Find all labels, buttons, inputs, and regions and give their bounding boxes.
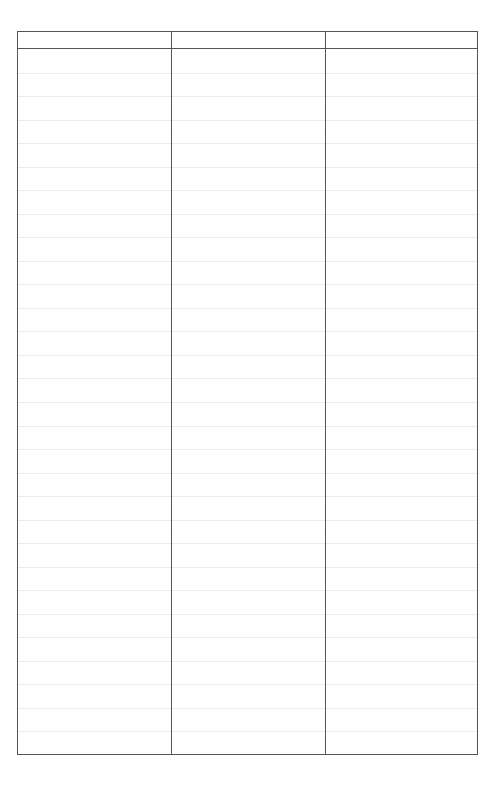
table-row — [18, 426, 477, 450]
table-row — [18, 261, 477, 285]
table-row — [18, 731, 477, 755]
table-row — [18, 684, 477, 708]
ruled-table — [17, 31, 478, 755]
table-header-row — [18, 32, 477, 49]
table-row — [18, 661, 477, 685]
column-header-3 — [326, 32, 478, 48]
column-divider-2 — [325, 32, 326, 754]
column-header-1 — [18, 32, 171, 48]
table-row — [18, 331, 477, 355]
table-row — [18, 449, 477, 473]
table-row — [18, 308, 477, 332]
table-row — [18, 49, 477, 73]
table-row — [18, 708, 477, 732]
column-header-2 — [172, 32, 325, 48]
table-row — [18, 496, 477, 520]
table-body — [18, 49, 477, 754]
table-row — [18, 355, 477, 379]
table-row — [18, 378, 477, 402]
table-row — [18, 214, 477, 238]
page — [0, 0, 498, 785]
table-row — [18, 120, 477, 144]
table-row — [18, 473, 477, 497]
table-row — [18, 637, 477, 661]
table-row — [18, 520, 477, 544]
table-row — [18, 237, 477, 261]
table-row — [18, 590, 477, 614]
table-row — [18, 143, 477, 167]
table-row — [18, 567, 477, 591]
table-row — [18, 96, 477, 120]
table-row — [18, 190, 477, 214]
table-row — [18, 543, 477, 567]
table-row — [18, 614, 477, 638]
table-row — [18, 284, 477, 308]
table-row — [18, 402, 477, 426]
column-divider-1 — [171, 32, 172, 754]
table-row — [18, 167, 477, 191]
table-row — [18, 73, 477, 97]
